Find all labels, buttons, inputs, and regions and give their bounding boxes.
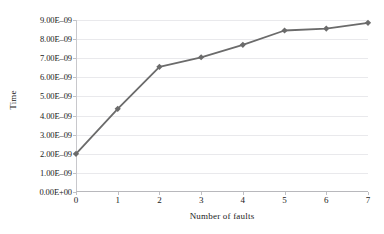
data-point-marker bbox=[365, 20, 371, 26]
x-axis-title: Number of faults bbox=[76, 211, 368, 221]
x-tick-label: 7 bbox=[353, 195, 383, 205]
x-tick-label: 0 bbox=[61, 195, 91, 205]
x-axis-tick-labels: 01234567 bbox=[76, 195, 368, 209]
series-line-time bbox=[76, 20, 368, 192]
y-tick-label: 5.00E–09 bbox=[18, 91, 72, 101]
data-point-marker bbox=[198, 54, 204, 60]
line-chart: Time 0.00E+001.00E–092.00E–093.00E–094.0… bbox=[0, 0, 384, 234]
x-tick-label: 5 bbox=[270, 195, 300, 205]
y-axis-tick-labels: 0.00E+001.00E–092.00E–093.00E–094.00E–09… bbox=[18, 20, 72, 192]
y-tick-label: 1.00E–09 bbox=[18, 168, 72, 178]
x-tick-label: 4 bbox=[228, 195, 258, 205]
x-tick-label: 2 bbox=[144, 195, 174, 205]
y-tick-label: 3.00E–09 bbox=[18, 130, 72, 140]
x-tick-label: 3 bbox=[186, 195, 216, 205]
y-tick-label: 2.00E–09 bbox=[18, 149, 72, 159]
x-tick-label: 1 bbox=[103, 195, 133, 205]
y-tick-label: 8.00E–09 bbox=[18, 34, 72, 44]
y-tick-label: 4.00E–09 bbox=[18, 111, 72, 121]
series-line bbox=[76, 23, 368, 154]
x-tick-label: 6 bbox=[311, 195, 341, 205]
data-point-marker bbox=[323, 26, 329, 32]
data-point-marker bbox=[240, 42, 246, 48]
y-tick-label: 9.00E–09 bbox=[18, 15, 72, 25]
y-axis-title-label: Time bbox=[8, 90, 18, 109]
y-tick-label: 6.00E–09 bbox=[18, 72, 72, 82]
y-tick-label: 7.00E–09 bbox=[18, 53, 72, 63]
plot-area bbox=[76, 20, 368, 192]
data-point-marker bbox=[281, 27, 287, 33]
